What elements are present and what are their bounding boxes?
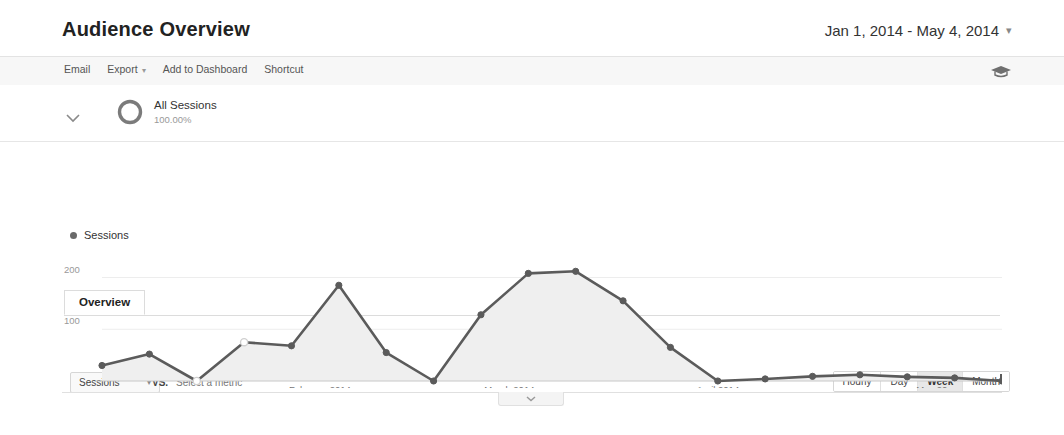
x-axis-tick-label: March 2014: [484, 384, 534, 388]
chart-data-point[interactable]: [99, 362, 105, 368]
legend-series-label: Sessions: [84, 229, 129, 241]
x-axis-tick-label: February 2014: [289, 384, 351, 388]
chart-data-point[interactable]: [762, 376, 768, 382]
x-axis-tick-label: May 20...: [916, 384, 955, 388]
date-range-picker[interactable]: Jan 1, 2014 - May 4, 2014▾: [825, 22, 1012, 39]
legend-dot-icon: [70, 232, 77, 239]
chevron-down-icon: [525, 395, 537, 402]
export-button-label: Export: [107, 63, 137, 75]
email-button-label: Email: [64, 63, 90, 75]
chart-collapse-handle[interactable]: [498, 392, 564, 406]
chart-data-point[interactable]: [857, 372, 863, 378]
chart-data-point[interactable]: [193, 377, 200, 384]
chart-data-point[interactable]: [573, 268, 579, 274]
chart-data-point[interactable]: [809, 373, 815, 379]
chevron-down-icon: ▾: [142, 66, 146, 75]
chevron-down-icon[interactable]: [64, 109, 82, 119]
segment-percent: 100.00%: [154, 114, 192, 125]
chart-data-point[interactable]: [952, 375, 958, 381]
x-axis-tick-label: April 2014: [696, 384, 739, 388]
date-range-label: Jan 1, 2014 - May 4, 2014: [825, 22, 999, 39]
audience-overview-report: Audience Overview Jan 1, 2014 - May 4, 2…: [0, 0, 1064, 435]
report-toolbar: Email Export▾ Add to Dashboard Shortcut: [0, 56, 1064, 86]
donut-ring-icon: [116, 98, 144, 130]
chart-data-point[interactable]: [999, 378, 1002, 384]
chart-data-point[interactable]: [288, 343, 294, 349]
sessions-timeline-chart[interactable]: 100200February 2014March 2014April 2014M…: [62, 248, 1002, 388]
add-to-dashboard-button[interactable]: Add to Dashboard: [163, 63, 248, 75]
export-button[interactable]: Export▾: [107, 63, 145, 75]
y-axis-tick-label: 100: [64, 315, 80, 326]
metric-controls: Sessions ▾ VS. Select a metric Hourly Da…: [0, 182, 1064, 216]
report-tabs: Overview: [0, 142, 1064, 174]
page-title: Audience Overview: [62, 18, 250, 41]
chart-data-point[interactable]: [525, 270, 531, 276]
y-axis-tick-label: 200: [64, 264, 80, 275]
email-button[interactable]: Email: [64, 63, 90, 75]
chart-data-point[interactable]: [383, 349, 389, 355]
chart-data-point[interactable]: [904, 374, 910, 380]
chevron-down-icon: ▾: [1006, 24, 1012, 37]
chart-data-point[interactable]: [478, 312, 484, 318]
chart-data-point[interactable]: [620, 298, 626, 304]
toolbar-actions: Email Export▾ Add to Dashboard Shortcut: [64, 63, 303, 75]
segment-name[interactable]: All Sessions: [154, 99, 217, 111]
shortcut-button[interactable]: Shortcut: [264, 63, 303, 75]
chart-data-point[interactable]: [146, 351, 152, 357]
report-header: Audience Overview Jan 1, 2014 - May 4, 2…: [0, 0, 1064, 55]
add-to-dashboard-label: Add to Dashboard: [163, 63, 248, 75]
chart-area-fill: [102, 271, 1002, 381]
chart-legend[interactable]: Sessions: [70, 229, 129, 241]
shortcut-button-label: Shortcut: [264, 63, 303, 75]
chart-data-point[interactable]: [667, 344, 673, 350]
chart-data-point[interactable]: [336, 282, 342, 288]
chart-data-point[interactable]: [430, 378, 436, 384]
chart-data-point[interactable]: [241, 339, 248, 346]
chart-canvas: 100200February 2014March 2014April 2014M…: [62, 248, 1002, 388]
graduation-cap-icon[interactable]: [990, 65, 1012, 79]
